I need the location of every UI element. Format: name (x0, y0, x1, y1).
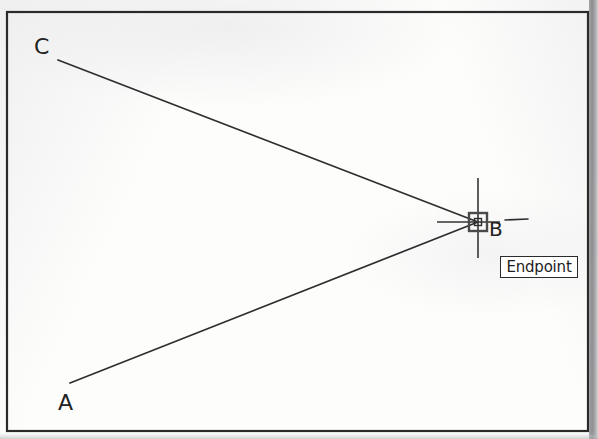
line-segment-cb[interactable] (58, 60, 478, 222)
label-b-overbar-stroke (505, 219, 528, 220)
cad-endpoint-snap-screenshot: C A B Endpoint (0, 0, 598, 439)
vertex-label-b: B (489, 219, 503, 239)
endpoint-snap-tooltip: Endpoint (500, 256, 578, 278)
vertex-label-c: C (34, 36, 49, 58)
vertex-label-a: A (58, 392, 73, 414)
endpoint-snap-tooltip-label: Endpoint (506, 260, 571, 275)
drawing-canvas[interactable] (0, 0, 598, 439)
line-segment-ab[interactable] (70, 222, 478, 383)
